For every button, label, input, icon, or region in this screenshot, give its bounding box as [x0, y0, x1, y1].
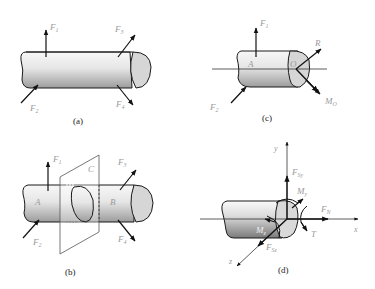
cylinder-body — [21, 52, 132, 88]
internal-force-diagram: F1 F3 F2 F4 (a) F1 F2 A O R MO (c) F1 — [0, 0, 375, 289]
label-fsy: FSy — [291, 167, 304, 178]
panel-a: F1 F3 F2 F4 (a) — [21, 22, 151, 126]
label-f2: F2 — [32, 237, 42, 248]
label-f4: F4 — [117, 234, 127, 245]
caption-a: (a) — [73, 116, 83, 126]
label-my: My — [296, 186, 308, 197]
label-f2: F2 — [29, 103, 39, 114]
label-mo: MO — [324, 96, 338, 107]
label-f3: F3 — [117, 157, 127, 168]
panel-c: F1 F2 A O R MO (c) — [209, 18, 338, 123]
label-b: B — [110, 197, 116, 207]
label-x: x — [353, 225, 358, 234]
label-r: R — [314, 38, 321, 48]
caption-c: (c) — [262, 113, 272, 123]
panel-b: F1 F3 F2 F4 C A B (b) — [23, 154, 153, 277]
label-y: y — [273, 144, 278, 153]
label-f4: F4 — [115, 99, 125, 110]
caption-b: (b) — [65, 267, 76, 277]
label-fn: FN — [320, 204, 332, 215]
torque-arrow-t — [301, 222, 307, 231]
caption-d: (d) — [278, 265, 289, 275]
cylinder-end-face — [131, 52, 151, 88]
label-f1: F1 — [52, 154, 62, 165]
label-a: A — [34, 197, 41, 207]
force-arrow-f2 — [23, 220, 39, 238]
moment-double-arrowhead — [306, 80, 320, 94]
label-point-a: A — [247, 59, 254, 69]
label-section-c: C — [88, 164, 95, 174]
label-point-o: O — [290, 59, 297, 69]
label-f3: F3 — [114, 24, 124, 35]
label-f1: F1 — [49, 22, 59, 33]
label-fsz: FSz — [265, 242, 278, 253]
force-arrow-f2 — [231, 87, 246, 103]
label-f2: F2 — [209, 102, 219, 113]
label-f1: F1 — [259, 18, 269, 29]
panel-d: y x z FSy FN FSz My Mz T (d) — [200, 142, 358, 275]
label-z: z — [228, 257, 233, 266]
label-t: T — [311, 229, 317, 239]
cylinder-end-face — [131, 185, 153, 222]
